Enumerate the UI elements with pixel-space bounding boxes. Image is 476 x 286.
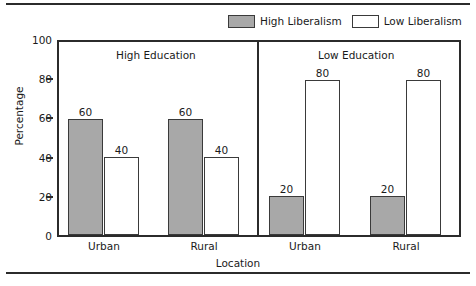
y-axis: 100 80 60 40 20 0 <box>24 40 52 237</box>
bar-value-label: 20 <box>381 184 394 195</box>
chart-legend: High Liberalism Low Liberalism <box>228 14 462 29</box>
bar-high-education-rural-high-liberalism[interactable]: 60 <box>168 119 203 235</box>
bar-value-label: 20 <box>280 184 293 195</box>
legend-item-high-liberalism: High Liberalism <box>228 15 342 28</box>
bars-layer: 60 40 60 40 20 80 20 80 <box>59 42 459 235</box>
bar-high-education-urban-low-liberalism[interactable]: 40 <box>104 157 139 235</box>
bar-high-education-urban-high-liberalism[interactable]: 60 <box>68 119 103 235</box>
legend-label-low-liberalism: Low Liberalism <box>384 16 462 27</box>
legend-item-low-liberalism: Low Liberalism <box>352 15 462 28</box>
plot-area: High Education Low Education 60 40 60 40… <box>57 40 461 237</box>
bar-low-education-urban-low-liberalism[interactable]: 80 <box>305 80 340 235</box>
bar-value-label: 60 <box>79 107 92 118</box>
y-tick-label-0: 0 <box>28 231 52 241</box>
bar-low-education-urban-high-liberalism[interactable]: 20 <box>269 196 304 235</box>
top-divider-rule <box>6 3 470 5</box>
bar-high-education-rural-low-liberalism[interactable]: 40 <box>204 157 239 235</box>
y-tick-mark-20 <box>46 196 53 198</box>
y-tick-label-100: 100 <box>28 35 52 45</box>
x-tick-label-high-education-rural: Rural <box>174 241 234 252</box>
y-axis-title: Percentage <box>13 70 25 162</box>
x-axis-title: Location <box>0 257 476 269</box>
bar-low-education-rural-low-liberalism[interactable]: 80 <box>406 80 441 235</box>
x-tick-label-low-education-rural: Rural <box>376 241 436 252</box>
legend-swatch-low-liberalism <box>352 15 379 28</box>
y-tick-mark-60 <box>46 117 53 119</box>
legend-swatch-high-liberalism <box>228 15 255 28</box>
y-tick-mark-80 <box>46 78 53 80</box>
y-tick-mark-40 <box>46 157 53 159</box>
legend-label-high-liberalism: High Liberalism <box>260 16 342 27</box>
bar-low-education-rural-high-liberalism[interactable]: 20 <box>370 196 405 235</box>
bar-value-label: 80 <box>316 68 329 79</box>
bar-value-label: 40 <box>115 145 128 156</box>
bar-value-label: 40 <box>215 145 228 156</box>
bar-value-label: 60 <box>179 107 192 118</box>
bar-value-label: 80 <box>417 68 430 79</box>
bottom-divider-rule <box>6 272 470 274</box>
chart-page: { "chart_data": { "type": "bar", "title"… <box>0 0 476 286</box>
x-tick-label-low-education-urban: Urban <box>275 241 335 252</box>
x-tick-label-high-education-urban: Urban <box>74 241 134 252</box>
